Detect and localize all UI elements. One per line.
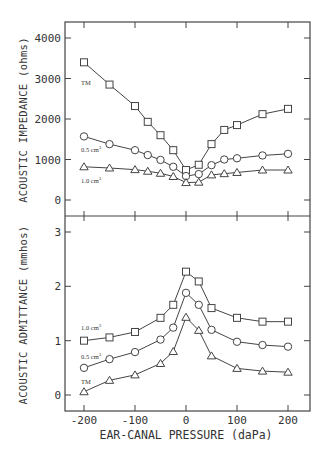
top-y-tick-labels: 0 1000 2000 3000 4000 <box>35 32 62 207</box>
tick-label: 3 <box>54 226 61 239</box>
circle-marker-icon <box>284 150 291 157</box>
triangle-marker-icon <box>233 364 241 371</box>
square-marker-icon <box>285 318 292 325</box>
top-x-ticks <box>84 22 288 221</box>
triangle-marker-icon <box>80 163 88 170</box>
series-label-0-5: 0.5 cm3 <box>81 352 102 360</box>
circle-marker-icon <box>106 140 113 147</box>
circle-marker-icon <box>80 364 87 371</box>
circle-marker-icon <box>144 151 151 158</box>
square-marker-icon <box>234 314 241 321</box>
chart-figure: 0 1000 2000 3000 4000 0 1 2 3 -200 -100 … <box>0 0 328 460</box>
tick-label: -200 <box>71 414 98 427</box>
tick-label: 1 <box>54 335 61 348</box>
series-line <box>84 272 288 341</box>
bottom-y-ticks <box>65 232 310 395</box>
series-label-1-0: 1.0 cm3 <box>81 323 102 331</box>
triangle-marker-icon <box>182 313 190 320</box>
series-label-0-5: 0.5 cm3 <box>81 145 102 153</box>
triangle-marker-icon <box>207 352 215 359</box>
square-marker-icon <box>106 334 113 341</box>
square-marker-icon <box>259 318 266 325</box>
tick-label: 3000 <box>35 73 62 86</box>
square-marker-icon <box>170 301 177 308</box>
series-label-tm: TM <box>81 79 91 86</box>
tick-label: 0 <box>54 194 61 207</box>
square-marker-icon <box>208 141 215 148</box>
tick-label: 0 <box>183 414 190 427</box>
circle-marker-icon <box>131 146 138 153</box>
square-marker-icon <box>195 278 202 285</box>
circle-marker-icon <box>195 170 202 177</box>
square-marker-icon <box>81 59 88 66</box>
tick-label: 1000 <box>35 154 62 167</box>
circle-marker-icon <box>233 338 240 345</box>
tick-label: -100 <box>122 414 149 427</box>
circle-marker-icon <box>208 326 215 333</box>
square-marker-icon <box>157 132 164 139</box>
series-label-tm: TM <box>81 378 91 385</box>
circle-marker-icon <box>80 133 87 140</box>
square-marker-icon <box>259 111 266 118</box>
series-label-1-0: 1.0 cm3 <box>81 176 102 184</box>
series-layer <box>80 59 292 395</box>
top-y-axis-label: ACOUSTIC IMPEDANCE (ohms) <box>17 37 29 203</box>
circle-marker-icon <box>233 155 240 162</box>
tick-label: 4000 <box>35 32 62 45</box>
square-marker-icon <box>183 268 190 275</box>
circle-marker-icon <box>131 348 138 355</box>
square-marker-icon <box>106 81 113 88</box>
triangle-marker-icon <box>131 371 139 378</box>
tick-label: 100 <box>227 414 247 427</box>
bottom-y-axis-label: ACOUSTIC ADMITTANCE (mmhos) <box>17 226 29 405</box>
square-marker-icon <box>285 105 292 112</box>
circle-marker-icon <box>208 161 215 168</box>
tick-label: 2000 <box>35 113 62 126</box>
plot-frame <box>65 22 310 411</box>
triangle-marker-icon <box>195 178 203 185</box>
series-line <box>84 62 288 170</box>
circle-marker-icon <box>106 355 113 362</box>
circle-marker-icon <box>182 289 189 296</box>
square-marker-icon <box>132 103 139 110</box>
circle-marker-icon <box>170 324 177 331</box>
tick-label: 2 <box>54 280 61 293</box>
circle-marker-icon <box>195 301 202 308</box>
x-axis-label: EAR-CANAL PRESSURE (daPa) <box>99 428 272 442</box>
bottom-series-labels: 1.0 cm3 0.5 cm3 TM <box>81 323 102 385</box>
circle-marker-icon <box>284 343 291 350</box>
tick-label: 0 <box>54 389 61 402</box>
square-marker-icon <box>208 305 215 312</box>
circle-marker-icon <box>170 163 177 170</box>
square-marker-icon <box>132 328 139 335</box>
square-marker-icon <box>157 314 164 321</box>
circle-marker-icon <box>259 341 266 348</box>
square-marker-icon <box>195 161 202 168</box>
circle-marker-icon <box>157 336 164 343</box>
tick-label: 200 <box>278 414 298 427</box>
x-tick-labels: -200 -100 0 100 200 <box>71 414 298 427</box>
triangle-marker-icon <box>80 388 88 395</box>
square-marker-icon <box>81 337 88 344</box>
bottom-y-tick-labels: 0 1 2 3 <box>54 226 61 402</box>
square-marker-icon <box>234 122 241 129</box>
square-marker-icon <box>170 147 177 154</box>
series-line <box>84 293 288 368</box>
bottom-x-ticks <box>84 405 288 411</box>
square-marker-icon <box>221 126 228 133</box>
triangle-marker-icon <box>169 348 177 355</box>
circle-marker-icon <box>259 152 266 159</box>
circle-marker-icon <box>221 156 228 163</box>
series-line <box>84 317 288 391</box>
circle-marker-icon <box>157 156 164 163</box>
square-marker-icon <box>144 118 151 125</box>
